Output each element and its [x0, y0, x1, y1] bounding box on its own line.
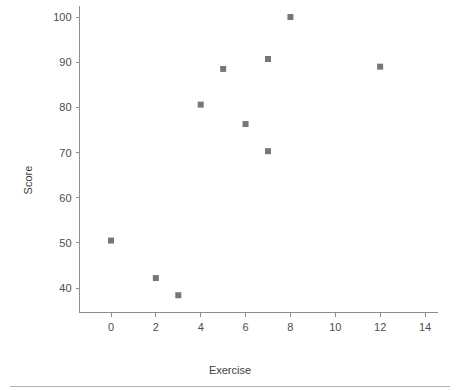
- data-point: [198, 102, 204, 108]
- data-point: [265, 148, 271, 154]
- x-tick-label: 4: [198, 321, 204, 333]
- x-tick-label-group: 02468101214: [108, 321, 431, 333]
- y-axis-title: Score: [22, 166, 34, 195]
- y-tick-label: 90: [59, 56, 71, 68]
- x-tick-group: [111, 313, 425, 317]
- x-axis-title: Exercise: [209, 364, 251, 376]
- plot-canvas: 405060708090100 02468101214 Exercise Sco…: [0, 0, 460, 390]
- data-point-group: [108, 14, 383, 298]
- data-point: [377, 64, 383, 70]
- x-tick-label: 0: [108, 321, 114, 333]
- data-point: [265, 56, 271, 62]
- data-point: [243, 121, 249, 127]
- y-tick-label-group: 405060708090100: [53, 11, 71, 294]
- data-point: [175, 292, 181, 298]
- x-tick-label: 2: [153, 321, 159, 333]
- y-tick-group: [76, 17, 80, 288]
- y-axis: 405060708090100: [53, 6, 79, 313]
- x-tick-label: 8: [287, 321, 293, 333]
- y-tick-label: 60: [59, 192, 71, 204]
- scatter-plot-figure: 405060708090100 02468101214 Exercise Sco…: [0, 0, 460, 390]
- x-tick-label: 6: [243, 321, 249, 333]
- y-tick-label: 40: [59, 282, 71, 294]
- x-tick-label: 14: [419, 321, 431, 333]
- x-tick-label: 12: [374, 321, 386, 333]
- x-axis: 02468101214: [80, 313, 439, 333]
- y-tick-label: 70: [59, 147, 71, 159]
- y-tick-label: 100: [53, 11, 71, 23]
- x-tick-label: 10: [329, 321, 341, 333]
- y-tick-label: 80: [59, 101, 71, 113]
- data-point: [287, 14, 293, 20]
- data-point: [220, 66, 226, 72]
- y-tick-label: 50: [59, 237, 71, 249]
- data-point: [108, 238, 114, 244]
- data-point: [153, 275, 159, 281]
